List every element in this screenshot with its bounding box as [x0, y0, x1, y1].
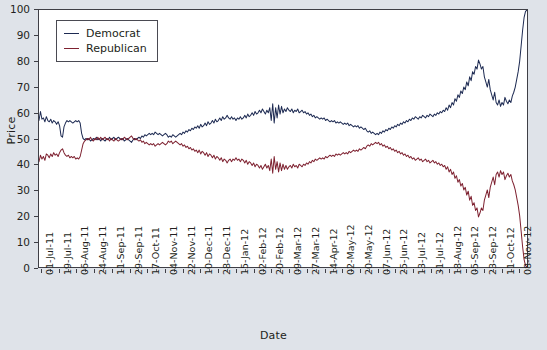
- x-tick-label: 24-Aug-11: [98, 226, 108, 275]
- x-tick-label: 02-Feb-12: [258, 227, 268, 275]
- legend-label-republican: Republican: [86, 43, 147, 54]
- y-tick-label: 0: [0, 263, 30, 273]
- x-tick-label: 25-Jun-12: [399, 229, 409, 275]
- y-tick-label: 60: [0, 108, 30, 118]
- x-tick-label: 27-Mar-12: [311, 227, 321, 275]
- legend-label-democrat: Democrat: [86, 28, 140, 39]
- x-tick-mark: [519, 269, 520, 273]
- x-tick-label: 17-Oct-11: [151, 227, 161, 275]
- x-tick-mark: [378, 269, 379, 273]
- legend-item-republican: Republican: [64, 41, 147, 56]
- legend-swatch-republican: [64, 48, 79, 49]
- y-tick-label: 50: [0, 134, 30, 144]
- x-tick-mark: [484, 269, 485, 273]
- x-tick-mark: [59, 269, 60, 273]
- x-tick-label: 08-Nov-12: [523, 226, 533, 275]
- y-tick-label: 40: [0, 159, 30, 169]
- x-tick-mark: [130, 269, 131, 273]
- x-tick-mark: [307, 269, 308, 273]
- x-tick-label: 28-Dec-11: [222, 226, 232, 275]
- x-tick-mark: [112, 269, 113, 273]
- x-tick-label: 10-Dec-11: [204, 226, 214, 275]
- legend-swatch-democrat: [64, 33, 79, 34]
- x-tick-mark: [41, 269, 42, 273]
- x-tick-mark: [342, 269, 343, 273]
- x-tick-mark: [360, 269, 361, 273]
- x-tick-mark: [254, 269, 255, 273]
- x-tick-label: 01-Jul-11: [45, 232, 55, 275]
- x-tick-label: 05-Sep-12: [470, 226, 480, 275]
- y-tick-label: 90: [0, 30, 30, 40]
- x-tick-mark: [271, 269, 272, 273]
- x-tick-mark: [200, 269, 201, 273]
- x-tick-label: 14-Apr-12: [329, 228, 339, 275]
- x-tick-mark: [325, 269, 326, 273]
- x-tick-mark: [94, 269, 95, 273]
- y-tick-label: 10: [0, 237, 30, 247]
- x-tick-mark: [218, 269, 219, 273]
- x-tick-label: 31-Jul-12: [435, 232, 445, 275]
- y-tick-label: 70: [0, 82, 30, 92]
- y-tick-label: 80: [0, 56, 30, 66]
- x-tick-label: 04-Nov-11: [169, 226, 179, 275]
- y-tick-label: 20: [0, 211, 30, 221]
- x-tick-label: 20-Feb-12: [275, 227, 285, 275]
- y-tick-label: 30: [0, 185, 30, 195]
- x-tick-label: 13-Jul-12: [417, 232, 427, 275]
- x-tick-label: 20-May-12: [364, 224, 374, 275]
- x-tick-label: 07-Jun-12: [382, 229, 392, 275]
- x-tick-label: 22-Nov-11: [187, 226, 197, 275]
- x-tick-mark: [76, 269, 77, 273]
- x-tick-label: 09-Mar-12: [293, 227, 303, 275]
- x-tick-mark: [466, 269, 467, 273]
- x-tick-label: 15-Jan-12: [240, 229, 250, 275]
- chart-legend: Democrat Republican: [56, 20, 158, 62]
- x-tick-mark: [236, 269, 237, 273]
- x-tick-mark: [183, 269, 184, 273]
- legend-item-democrat: Democrat: [64, 26, 147, 41]
- x-tick-label: 11-Sep-11: [116, 226, 126, 275]
- x-tick-mark: [289, 269, 290, 273]
- chart-figure: Price 0102030405060708090100 01-Jul-1119…: [0, 0, 547, 350]
- x-tick-mark: [165, 269, 166, 273]
- x-axis-title: Date: [0, 329, 547, 342]
- x-tick-mark: [502, 269, 503, 273]
- x-tick-label: 06-Aug-11: [80, 226, 90, 275]
- x-tick-mark: [449, 269, 450, 273]
- x-tick-label: 29-Sep-11: [134, 226, 144, 275]
- x-tick-mark: [413, 269, 414, 273]
- x-tick-label: 11-Oct-12: [506, 227, 516, 275]
- y-tick-mark: [34, 268, 38, 269]
- x-tick-mark: [147, 269, 148, 273]
- y-tick-label: 100: [0, 4, 30, 14]
- x-tick-label: 02-May-12: [346, 224, 356, 275]
- x-tick-label: 19-Jul-11: [63, 232, 73, 275]
- x-tick-label: 18-Aug-12: [453, 226, 463, 275]
- x-tick-mark: [395, 269, 396, 273]
- x-tick-label: 23-Sep-12: [488, 226, 498, 275]
- x-tick-mark: [431, 269, 432, 273]
